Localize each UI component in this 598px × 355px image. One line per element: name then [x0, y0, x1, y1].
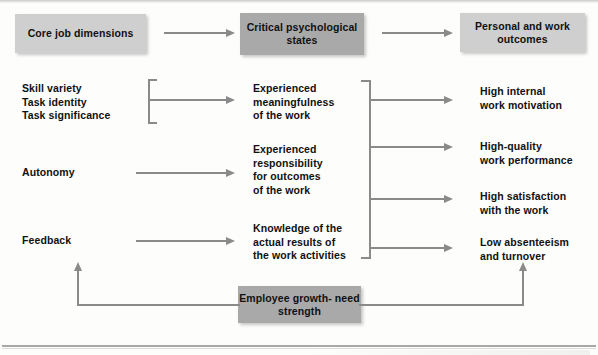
outcome-high-satisfaction-with-the-work: High satisfaction with the work — [480, 190, 595, 217]
left-bracket-vertical — [148, 79, 150, 124]
left-bracket-bottom-tab — [148, 122, 157, 124]
header-box-personal-and-work-outcomes: Personal and work outcomes — [460, 13, 585, 52]
arrow-autonomy-to-responsibility-line — [136, 172, 226, 174]
psychological-state-experienced-meaningfulness: Experienced meaningfulness of the work — [253, 82, 368, 123]
psychological-state-experienced-responsibility: Experienced responsibility for outcomes … — [253, 143, 368, 197]
moderator-right-loop-horizontal — [359, 304, 524, 306]
arrow-states-to-absenteeism-head — [444, 244, 453, 252]
arrow-autonomy-to-responsibility-head — [226, 169, 235, 177]
core-job-dimension-feedback: Feedback — [22, 234, 147, 248]
page-bottom-rule — [2, 345, 596, 347]
arrow-states-to-satisfaction-line — [371, 198, 444, 200]
moderator-left-loop-vertical — [77, 271, 79, 306]
arrow-states-to-satisfaction-head — [444, 195, 453, 203]
header-box-core-job-dimensions: Core job dimensions — [15, 14, 146, 53]
middle-bracket-vertical — [369, 80, 371, 259]
page-bottom-rule-shadow — [2, 348, 596, 349]
arrow-feedback-to-knowledge-line — [136, 240, 226, 242]
page-top-edge — [0, 0, 598, 3]
header-arrow-1-line — [164, 32, 226, 34]
middle-bracket-bottom-tab — [361, 257, 371, 259]
header-box-critical-psychological-states: Critical psychological states — [240, 13, 364, 55]
core-job-dimensions-group: Skill variety Task identity Task signifi… — [22, 82, 147, 123]
moderator-left-loop-horizontal — [77, 304, 240, 306]
header-arrow-2-head — [444, 29, 453, 37]
header-arrow-2-line — [382, 32, 444, 34]
header-arrow-1-head — [226, 29, 235, 37]
outcome-high-internal-work-motivation: High internal work motivation — [480, 85, 595, 112]
arrow-states-to-performance-head — [444, 143, 453, 151]
arrow-states-to-motivation-line — [371, 99, 444, 101]
arrow-states-to-absenteeism-line — [371, 247, 444, 249]
outcome-low-absenteeism-and-turnover: Low absenteeism and turnover — [480, 236, 595, 263]
core-job-dimension-autonomy: Autonomy — [22, 166, 147, 180]
moderator-right-loop-arrowhead — [519, 262, 527, 271]
arrow-dimensions-to-meaningfulness-line — [150, 99, 226, 101]
arrow-states-to-performance-line — [371, 146, 444, 148]
middle-bracket-top-tab — [361, 80, 371, 82]
arrow-states-to-motivation-head — [444, 96, 453, 104]
page-footer-smudge — [300, 350, 590, 355]
moderator-box-employee-growth-need-strength: Employee growth- need strength — [238, 286, 361, 323]
job-characteristics-model-diagram: Core job dimensions Critical psychologic… — [0, 0, 598, 355]
moderator-left-loop-arrowhead — [74, 262, 82, 271]
outcome-high-quality-work-performance: High-quality work performance — [480, 140, 595, 167]
arrow-feedback-to-knowledge-head — [226, 237, 235, 245]
arrow-dimensions-to-meaningfulness-head — [226, 96, 235, 104]
moderator-right-loop-vertical — [522, 271, 524, 306]
psychological-state-knowledge-of-results: Knowledge of the actual results of the w… — [253, 222, 371, 263]
left-bracket-top-tab — [148, 79, 157, 81]
